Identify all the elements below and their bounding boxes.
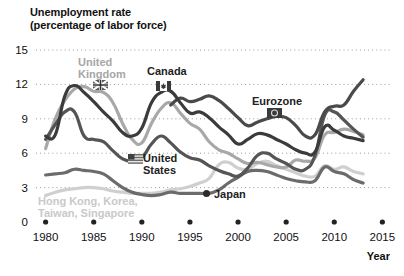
x-tick-dot-1985 bbox=[91, 219, 96, 224]
series-lines bbox=[46, 80, 364, 196]
x-tick-dot-1990 bbox=[139, 219, 144, 224]
x-tick-dot-2015 bbox=[380, 219, 385, 224]
series-label-uk-line2: Kingdom bbox=[78, 68, 126, 80]
series-label-japan: Japan bbox=[214, 188, 246, 200]
y-tick-label-15: 15 bbox=[4, 44, 28, 56]
series-label-canada: Canada bbox=[147, 65, 187, 77]
x-tick-label-1990: 1990 bbox=[119, 231, 165, 243]
x-tick-label-1985: 1985 bbox=[71, 231, 117, 243]
x-tick-dot-2000 bbox=[235, 219, 240, 224]
x-axis-tick-dots bbox=[43, 219, 385, 224]
x-tick-label-2000: 2000 bbox=[215, 231, 261, 243]
canada-flag-icon bbox=[156, 81, 171, 91]
x-tick-label-2005: 2005 bbox=[263, 231, 309, 243]
series-label-tigers-line2: Taiwan, Singapore bbox=[38, 207, 138, 219]
x-tick-dot-2005 bbox=[284, 219, 289, 224]
series-label-us-line1: United bbox=[143, 152, 177, 164]
unemployment-rate-chart: Unemployment rate (percentage of labor f… bbox=[0, 0, 404, 276]
series-label-eurozone: Eurozone bbox=[252, 95, 302, 107]
x-tick-dot-1980 bbox=[43, 219, 48, 224]
y-tick-label-0: 0 bbox=[4, 216, 28, 228]
y-tick-label-9: 9 bbox=[4, 113, 28, 125]
y-tick-label-12: 12 bbox=[4, 78, 28, 90]
x-tick-label-1995: 1995 bbox=[167, 231, 213, 243]
x-tick-label-1980: 1980 bbox=[23, 231, 69, 243]
us-flag-icon bbox=[128, 154, 143, 164]
series-label-united-states: United States bbox=[143, 152, 177, 176]
uk-flag-icon bbox=[93, 80, 108, 90]
y-tick-label-3: 3 bbox=[4, 182, 28, 194]
y-tick-label-6: 6 bbox=[4, 147, 28, 159]
x-tick-dot-1995 bbox=[187, 219, 192, 224]
series-label-united-kingdom: United Kingdom bbox=[78, 56, 126, 80]
x-axis-title: Year bbox=[367, 250, 390, 262]
eu-flag-icon bbox=[267, 108, 282, 118]
x-tick-label-2010: 2010 bbox=[311, 231, 357, 243]
series-label-uk-line1: United bbox=[78, 56, 126, 68]
japan-dot-icon bbox=[203, 190, 210, 197]
series-label-us-line2: States bbox=[143, 164, 177, 176]
series-label-asian-tigers: Hong Kong, Korea, Taiwan, Singapore bbox=[38, 195, 138, 219]
x-tick-label-2015: 2015 bbox=[359, 231, 404, 243]
series-label-tigers-line1: Hong Kong, Korea, bbox=[38, 195, 138, 207]
x-tick-dot-2010 bbox=[332, 219, 337, 224]
